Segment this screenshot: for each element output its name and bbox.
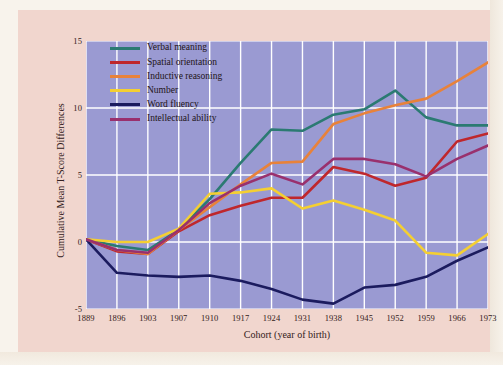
scan-edge-bottom	[0, 352, 503, 365]
y-tick-label: 15	[64, 36, 82, 46]
legend-item[interactable]: Word fluency	[110, 98, 260, 112]
legend-item[interactable]: Number	[110, 84, 260, 98]
legend-item[interactable]: Inductive reasoning	[110, 69, 260, 83]
y-axis-title: Cumulative Mean T-Score Differences	[55, 47, 66, 315]
legend-item-label: Spatial orientation	[147, 58, 217, 68]
x-tick-label: 1973	[479, 313, 496, 323]
x-tick-label: 1938	[325, 313, 342, 323]
x-axis-title: Cohort (year of birth)	[86, 329, 488, 340]
x-tick-label: 1907	[170, 313, 187, 323]
figure-panel: Cumulative Mean T-Score Differences Coho…	[18, 10, 490, 352]
y-tick-label: 0	[64, 237, 82, 247]
x-tick-label: 1931	[294, 313, 311, 323]
x-tick-label: 1896	[108, 313, 125, 323]
chart-legend: Verbal meaningSpatial orientationInducti…	[110, 41, 260, 126]
x-tick-label: 1966	[448, 313, 465, 323]
x-tick-label: 1924	[263, 313, 280, 323]
x-tick-label: 1945	[356, 313, 373, 323]
legend-item[interactable]: Spatial orientation	[110, 55, 260, 69]
legend-color-swatch	[110, 103, 140, 106]
legend-item[interactable]: Intellectual ability	[110, 112, 260, 126]
x-tick-label: 1889	[77, 313, 94, 323]
x-tick-label: 1952	[387, 313, 404, 323]
chart-page: Cumulative Mean T-Score Differences Coho…	[0, 0, 503, 365]
x-tick-label: 1910	[201, 313, 218, 323]
legend-item-label: Word fluency	[147, 100, 199, 110]
y-tick-label: 5	[64, 170, 82, 180]
y-tick-label: -5	[64, 304, 82, 314]
x-tick-label: 1917	[232, 313, 249, 323]
legend-item-label: Verbal meaning	[147, 43, 207, 53]
x-tick-label: 1903	[139, 313, 156, 323]
legend-color-swatch	[110, 61, 140, 64]
legend-item-label: Inductive reasoning	[147, 72, 222, 82]
x-tick-label: 1959	[417, 313, 434, 323]
legend-item-label: Number	[147, 86, 178, 96]
scan-edge-right	[490, 0, 503, 365]
legend-color-swatch	[110, 47, 140, 50]
legend-item-label: Intellectual ability	[147, 114, 216, 124]
legend-color-swatch	[110, 89, 140, 92]
legend-item[interactable]: Verbal meaning	[110, 41, 260, 55]
series-line	[86, 133, 488, 254]
series-line	[86, 188, 488, 255]
legend-color-swatch	[110, 75, 140, 78]
y-tick-label: 10	[64, 103, 82, 113]
legend-color-swatch	[110, 118, 140, 121]
